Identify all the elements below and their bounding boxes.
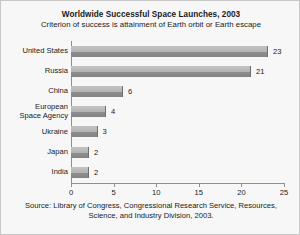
category-label: China <box>13 87 71 96</box>
chart-subtitle: Criterion of success is attainment of Ea… <box>1 20 300 30</box>
bar <box>71 106 106 117</box>
bar-value-label: 4 <box>111 107 115 116</box>
x-axis-tick-label: 20 <box>237 188 245 197</box>
source-citation: Source: Library of Congress, Congression… <box>1 201 300 220</box>
x-axis-tick <box>241 183 242 187</box>
bar <box>71 46 268 57</box>
bar-zone: 23 <box>71 41 289 61</box>
x-axis-tick-label: 5 <box>111 188 115 197</box>
x-axis-tick-label: 25 <box>280 188 288 197</box>
x-axis-line: 0 5 10 15 20 25 <box>71 183 284 184</box>
bar-value-label: 3 <box>103 127 107 136</box>
bar-row: India 2 <box>13 162 289 182</box>
bar <box>71 126 98 137</box>
chart-title: Worldwide Successful Space Launches, 200… <box>1 10 300 20</box>
bar <box>71 86 123 97</box>
bar <box>71 167 89 178</box>
bar-value-label: 23 <box>273 47 281 56</box>
bar <box>71 147 89 158</box>
x-axis-tick <box>156 183 157 187</box>
category-label: Russia <box>13 67 71 76</box>
source-line-1: Source: Library of Congress, Congression… <box>11 201 291 211</box>
bar-zone: 21 <box>71 61 289 81</box>
bar-zone: 3 <box>71 122 289 142</box>
category-label: Japan <box>13 148 71 157</box>
bar <box>71 66 251 77</box>
x-axis-tick <box>114 183 115 187</box>
x-axis-tick-label: 10 <box>152 188 160 197</box>
bar-row: European Space Agency 4 <box>13 102 289 122</box>
bar-row: Japan 2 <box>13 142 289 162</box>
bar-value-label: 2 <box>94 148 98 157</box>
bar-zone: 2 <box>71 142 289 162</box>
bar-value-label: 6 <box>128 87 132 96</box>
title-block: Worldwide Successful Space Launches, 200… <box>1 10 300 30</box>
bar-row: United States 23 <box>13 41 289 61</box>
chart-figure: Worldwide Successful Space Launches, 200… <box>0 0 300 235</box>
x-axis-tick-label: 15 <box>195 188 203 197</box>
bar-row: Ukraine 3 <box>13 122 289 142</box>
bar-row: Russia 21 <box>13 61 289 81</box>
x-axis-tick-label: 0 <box>69 188 73 197</box>
bar-zone: 6 <box>71 81 289 101</box>
bar-zone: 2 <box>71 162 289 182</box>
plot-area: United States 23 Russia 21 China <box>13 41 289 183</box>
category-label: European Space Agency <box>13 103 71 120</box>
x-axis-tick <box>199 183 200 187</box>
bar-zone: 4 <box>71 102 289 122</box>
category-label: Ukraine <box>13 128 71 137</box>
bar-row: China 6 <box>13 81 289 101</box>
bar-value-label: 2 <box>94 168 98 177</box>
source-line-2: Science, and Industry Division, 2003. <box>11 211 291 221</box>
x-axis-tick <box>71 183 72 187</box>
category-label: India <box>13 168 71 177</box>
category-label: United States <box>13 47 71 56</box>
bar-value-label: 21 <box>256 67 264 76</box>
x-axis-tick <box>284 183 285 187</box>
